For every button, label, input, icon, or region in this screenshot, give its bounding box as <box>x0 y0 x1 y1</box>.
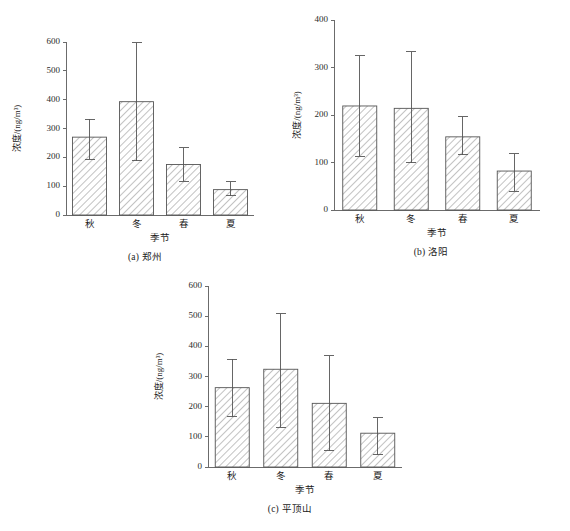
bar-group <box>312 356 346 467</box>
y-tick-label: 300 <box>315 62 329 72</box>
x-category-label: 秋 <box>85 218 95 229</box>
y-tick-label: 600 <box>189 280 203 290</box>
chart-panel-c: 0100200300400500600秋冬春夏季节浓度/(ng/m³) (c) … <box>140 276 440 531</box>
bar-chart-c: 0100200300400500600秋冬春夏季节浓度/(ng/m³) <box>140 276 440 501</box>
y-tick-label: 500 <box>47 65 61 75</box>
y-tick-label: 300 <box>189 371 203 381</box>
y-tick-label: 400 <box>189 340 203 350</box>
x-category-label: 夏 <box>226 219 236 229</box>
chart-panel-a: 0100200300400500600秋冬春夏季节浓度/(ng/m³) (a) … <box>0 4 290 274</box>
y-tick-label: 400 <box>47 94 61 104</box>
y-tick-label: 0 <box>198 461 203 471</box>
y-tick-label: 100 <box>315 157 329 167</box>
y-axis-title: 浓度/(ng/m³) <box>292 91 302 139</box>
y-axis-title: 浓度/(ng/m³) <box>153 353 164 401</box>
x-category-label: 夏 <box>373 471 383 481</box>
panel-b-caption: (b) 洛阳 <box>292 244 570 258</box>
y-axis-title: 浓度/(ng/m³) <box>11 105 22 153</box>
bar-group <box>361 418 395 467</box>
bar-chart-a: 0100200300400500600秋冬春夏季节浓度/(ng/m³) <box>0 4 290 249</box>
y-tick-label: 300 <box>47 123 61 133</box>
x-category-label: 春 <box>458 213 468 224</box>
x-axis-title: 季节 <box>150 232 170 243</box>
y-tick-label: 200 <box>189 401 203 411</box>
bar-group <box>497 154 531 210</box>
y-tick-label: 100 <box>189 431 203 441</box>
y-tick-label: 100 <box>47 180 61 190</box>
chart-panel-b: 0100200300400秋冬春夏季节浓度/(ng/m³) (b) 洛阳 <box>292 4 570 274</box>
bar-group <box>343 56 377 210</box>
x-category-label: 春 <box>324 470 334 481</box>
panel-c-caption: (c) 平顶山 <box>140 501 440 515</box>
x-category-label: 夏 <box>509 214 519 224</box>
y-tick-label: 0 <box>56 209 61 219</box>
x-category-label: 冬 <box>276 470 286 481</box>
bar-group <box>446 117 480 210</box>
bar-group <box>215 359 249 467</box>
x-category-label: 冬 <box>132 218 142 229</box>
x-category-label: 秋 <box>227 470 237 481</box>
y-tick-label: 500 <box>189 310 203 320</box>
bar-group <box>214 182 248 215</box>
x-category-label: 秋 <box>355 213 365 224</box>
x-axis-title: 季节 <box>295 484 315 495</box>
bar-group <box>167 148 201 215</box>
figure-three-panel-bar-charts: 0100200300400500600秋冬春夏季节浓度/(ng/m³) (a) … <box>0 0 570 531</box>
bar-group <box>264 314 298 467</box>
bar-chart-b: 0100200300400秋冬春夏季节浓度/(ng/m³) <box>292 4 570 244</box>
bar-group <box>120 43 154 215</box>
bar-group <box>394 52 428 210</box>
y-tick-label: 0 <box>324 204 329 214</box>
y-tick-label: 600 <box>47 36 61 46</box>
y-tick-label: 400 <box>315 14 329 24</box>
panel-a-caption: (a) 郑州 <box>0 249 290 263</box>
x-category-label: 春 <box>179 218 189 229</box>
x-category-label: 冬 <box>406 213 416 224</box>
bar-group <box>73 119 107 215</box>
x-axis-title: 季节 <box>427 227 447 238</box>
y-tick-label: 200 <box>47 151 61 161</box>
y-tick-label: 200 <box>315 109 329 119</box>
